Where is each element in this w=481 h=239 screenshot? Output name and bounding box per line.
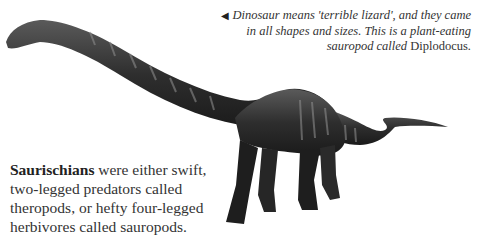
illustration-caption: ◀Dinosaur means 'terrible lizard', and t…	[221, 8, 471, 55]
caption-end: .	[468, 39, 471, 53]
caption-genus: Diplodocus	[410, 39, 468, 53]
pointer-arrow-icon: ◀	[221, 10, 229, 21]
term-saurischians: Saurischians	[10, 161, 94, 178]
body-paragraph: Saurischians were either swift, two-legg…	[10, 160, 220, 236]
